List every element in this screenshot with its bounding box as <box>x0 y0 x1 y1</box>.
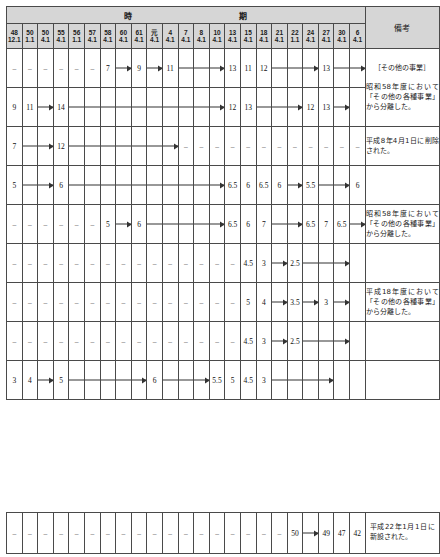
period-cell-value: 5.5 <box>303 166 319 205</box>
period-cell-value: 6 <box>147 361 163 400</box>
period-cell-value: 5 <box>240 283 256 322</box>
period-cell-empty-marker: – <box>209 322 225 361</box>
arrow-line-icon <box>85 146 100 147</box>
continuation-arrow-head-icon <box>38 127 54 166</box>
remarks-cell: 平成18年度において「その他の各種事業」から分離した。 <box>365 283 439 322</box>
period-cell-value: 42 <box>350 513 366 554</box>
period-group-label-1: 時 <box>124 10 133 21</box>
period-cell-empty-marker: – <box>162 244 178 283</box>
period-cell-empty-marker: – <box>38 205 54 244</box>
table-row: ––––––––––––––––––50494742平成22年1月1日に新設され… <box>7 513 440 554</box>
period-date: 12.1 <box>7 36 22 43</box>
arrow-line-icon <box>272 68 287 69</box>
period-cell-empty-marker: – <box>53 244 69 283</box>
remarks-body: 昭和58年度において「その他の各種事業」から分離した。 <box>366 209 439 239</box>
arrow-line-icon <box>85 380 100 381</box>
period-cell-value: 6 <box>240 166 256 205</box>
period-date: 4.1 <box>132 36 147 43</box>
period-date: 4.1 <box>179 36 194 43</box>
period-cell-value: 11 <box>162 49 178 88</box>
period-cell-value: 13 <box>225 49 241 88</box>
period-cell-value: 6 <box>350 166 366 205</box>
period-cell-empty-marker: – <box>38 283 54 322</box>
remarks-cell: ［その他の事業］昭和58年度において「その他の各種事業」から分離した。 <box>365 49 439 127</box>
period-cell-blank <box>350 322 366 361</box>
arrow-line-icon <box>101 380 116 381</box>
continuation-arrow-line-icon <box>334 49 350 88</box>
continuation-arrow-line-icon <box>272 88 288 127</box>
period-cell-empty-marker: – <box>53 49 69 88</box>
period-column-header: 561.1 <box>69 24 85 49</box>
period-cell-empty-marker: – <box>162 283 178 322</box>
arrow-line-icon <box>101 107 116 108</box>
continuation-arrow-head-icon <box>350 205 366 244</box>
continuation-arrow-line-icon <box>162 88 178 127</box>
period-column-header: 84.1 <box>194 24 210 49</box>
arrow-line-icon <box>132 185 147 186</box>
arrow-head-icon <box>272 263 287 264</box>
period-cell-value: 6.5 <box>334 205 350 244</box>
period-table: 時 期 備考 4812.1501.1504.1554.1561.1574.158… <box>6 6 440 400</box>
continuation-arrow-head-icon <box>209 205 225 244</box>
remarks-body: 平成18年度において「その他の各種事業」から分離した。 <box>366 287 439 317</box>
period-date: 4.1 <box>85 36 100 43</box>
period-cell-empty-marker: – <box>178 513 194 554</box>
period-cell-empty-marker: – <box>240 513 256 554</box>
period-cell-empty-marker: – <box>116 244 132 283</box>
arrow-head-icon <box>163 146 178 147</box>
continuation-arrow-line-icon <box>100 166 116 205</box>
period-cell-empty-marker: – <box>209 283 225 322</box>
period-cell-value: 3 <box>256 244 272 283</box>
period-column-header: 134.1 <box>225 24 241 49</box>
continuation-arrow-line-icon <box>303 361 319 400</box>
continuation-arrow-line-icon <box>84 127 100 166</box>
remarks-title: ［その他の事業］ <box>366 63 439 73</box>
continuation-arrow-head-icon <box>287 205 303 244</box>
continuation-arrow-head-icon <box>272 283 288 322</box>
period-cell-empty-marker: – <box>84 49 100 88</box>
arrow-line-icon <box>147 224 162 225</box>
arrow-line-icon <box>69 380 84 381</box>
period-cell-empty-marker: – <box>334 127 350 166</box>
arrow-line-icon <box>69 146 84 147</box>
continuation-arrow-head-icon <box>194 361 210 400</box>
period-column-header: 584.1 <box>100 24 116 49</box>
period-cell-value: 3 <box>256 322 272 361</box>
period-cell-value: 4 <box>256 283 272 322</box>
period-cell-value: 47 <box>334 513 350 554</box>
period-era-year: 57 <box>85 29 100 36</box>
arrow-line-icon <box>101 185 116 186</box>
period-cell-value: 50 <box>287 513 303 554</box>
period-cell-empty-marker: – <box>84 244 100 283</box>
period-cell-value: 6 <box>240 205 256 244</box>
period-cell-empty-marker: – <box>287 127 303 166</box>
period-cell-value: 4.5 <box>240 322 256 361</box>
period-cell-empty-marker: – <box>100 244 116 283</box>
continuation-arrow-head-icon <box>209 166 225 205</box>
period-column-header: 504.1 <box>38 24 54 49</box>
continuation-arrow-line-icon <box>100 127 116 166</box>
arrow-head-icon <box>303 302 318 303</box>
period-cell-empty-marker: – <box>162 513 178 554</box>
arrow-line-icon <box>147 185 162 186</box>
arrow-line-icon <box>163 185 178 186</box>
period-group-label-2: 期 <box>239 10 248 21</box>
period-cell-empty-marker: – <box>84 513 100 554</box>
arrow-line-icon <box>257 107 272 108</box>
period-date: 1.1 <box>23 36 38 43</box>
arrow-head-icon <box>272 341 287 342</box>
period-cell-empty-marker: – <box>22 244 38 283</box>
arrow-head-icon <box>210 68 225 69</box>
continuation-arrow-line-icon <box>69 361 85 400</box>
period-cell-value: 5 <box>100 205 116 244</box>
continuation-arrow-line-icon <box>116 127 132 166</box>
period-cell-value: 2.5 <box>287 244 303 283</box>
period-cell-empty-marker: – <box>131 322 147 361</box>
continuation-arrow-line-icon <box>318 166 334 205</box>
continuation-arrow-line-icon <box>131 127 147 166</box>
period-cell-empty-marker: – <box>256 127 272 166</box>
period-era-year: 6 <box>350 29 365 36</box>
arrow-line-icon <box>23 185 38 186</box>
remarks-body: 昭和58年度において「その他の各種事業」から分離した。 <box>366 82 439 112</box>
period-cell-empty-marker: – <box>225 322 241 361</box>
